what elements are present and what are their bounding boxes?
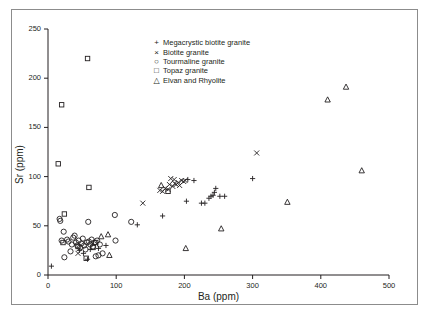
data-point	[160, 213, 165, 218]
data-point	[183, 245, 188, 250]
data-point	[202, 201, 207, 206]
data-point	[135, 222, 140, 227]
legend-marker-icon: +	[150, 38, 163, 47]
data-point	[254, 150, 259, 155]
data-point	[184, 199, 189, 204]
data-point	[191, 178, 196, 183]
data-point	[359, 168, 364, 173]
data-point	[129, 219, 134, 224]
legend-item-4: △Elvan and Rhyolite	[150, 76, 300, 85]
data-point	[112, 212, 117, 217]
data-point	[86, 219, 91, 224]
data-point	[140, 201, 145, 206]
data-point	[325, 97, 330, 102]
data-point	[98, 234, 103, 239]
legend-marker-icon: □	[150, 66, 163, 75]
y-tick-label: 0	[0, 270, 41, 279]
data-point	[213, 186, 218, 191]
series-4	[98, 84, 364, 257]
data-point	[56, 162, 60, 166]
data-point	[219, 226, 224, 231]
legend: +Megacrystic biotite granite×Biotite gra…	[150, 38, 300, 85]
legend-label: Megacrystic biotite granite	[163, 38, 250, 47]
x-axis-label: Ba (ppm)	[179, 291, 259, 302]
data-point	[250, 176, 255, 181]
data-point	[85, 56, 89, 60]
legend-marker-icon: △	[150, 76, 163, 85]
data-point	[168, 176, 173, 181]
data-point	[285, 199, 290, 204]
data-point	[103, 243, 108, 248]
data-point	[68, 249, 73, 254]
data-point	[85, 257, 90, 262]
data-point	[59, 103, 63, 107]
x-tick-label: 400	[307, 281, 335, 290]
data-point	[107, 252, 112, 257]
data-point	[343, 84, 348, 89]
legend-item-3: □Topaz granite	[150, 66, 300, 75]
x-tick-label: 100	[102, 281, 130, 290]
data-point	[212, 190, 217, 195]
data-point	[159, 182, 164, 187]
y-tick-label: 250	[0, 24, 41, 33]
legend-label: Biotite granite	[163, 48, 209, 57]
data-point	[105, 232, 110, 237]
data-point	[62, 255, 67, 260]
legend-marker-icon: ×	[150, 48, 163, 57]
legend-label: Topaz granite	[163, 66, 208, 75]
data-point	[113, 238, 118, 243]
data-point	[217, 194, 222, 199]
legend-label: Tourmaline granite	[163, 57, 225, 66]
x-tick-label: 0	[34, 281, 62, 290]
series-1	[76, 150, 260, 255]
data-point	[62, 212, 66, 216]
y-tick-label: 150	[0, 122, 41, 131]
data-point	[87, 185, 91, 189]
legend-item-0: +Megacrystic biotite granite	[150, 38, 300, 47]
series-2	[57, 212, 134, 260]
y-tick-label: 50	[0, 221, 41, 230]
legend-marker-icon: ○	[150, 57, 163, 66]
x-tick-label: 500	[375, 281, 403, 290]
legend-item-2: ○Tourmaline granite	[150, 57, 300, 66]
x-tick-label: 300	[239, 281, 267, 290]
data-point	[76, 251, 81, 256]
y-axis-label: Sr (ppm)	[14, 145, 25, 184]
data-point	[222, 194, 227, 199]
y-tick-label: 200	[0, 73, 41, 82]
data-point	[61, 229, 66, 234]
legend-item-1: ×Biotite granite	[150, 47, 300, 56]
legend-label: Elvan and Rhyolite	[163, 76, 226, 85]
x-tick-label: 200	[170, 281, 198, 290]
series-3	[56, 56, 170, 260]
data-point	[49, 264, 54, 269]
